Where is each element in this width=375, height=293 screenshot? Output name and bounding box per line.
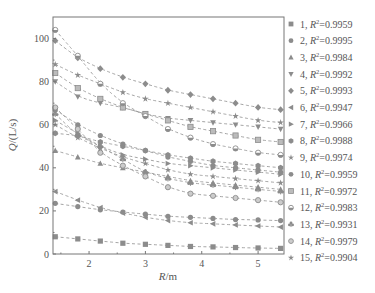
y-tick-label: 100 <box>34 33 49 44</box>
square-open-marker-icon <box>289 189 294 194</box>
circle-half-marker-icon <box>210 142 215 147</box>
triangle-left-marker-icon <box>210 221 215 227</box>
triangle-right-marker-icon <box>143 156 148 162</box>
circle-marker-icon <box>165 154 170 159</box>
hexagon-marker-icon <box>289 138 294 144</box>
legend-item-7: 7, R2=0.9966 <box>289 118 353 130</box>
y-tick-label: 80 <box>39 76 49 87</box>
x-tick-label: 4 <box>199 258 204 269</box>
series-11 <box>53 70 284 144</box>
triangle-down-marker-icon <box>75 94 81 99</box>
triangle-right-marker-icon <box>166 161 171 167</box>
legend-item-5: 5, R2=0.9993 <box>288 84 352 96</box>
diamond-marker-icon <box>120 74 126 81</box>
legend-item-8: 8, R2=0.9988 <box>289 134 353 146</box>
x-tick-label: 2 <box>87 258 92 269</box>
legend-label: 2, R2=0.9995 <box>300 34 353 46</box>
circle-open-marker-icon <box>165 185 170 190</box>
circle-marker-icon <box>210 163 215 168</box>
legend-label: 11, R2=0.9972 <box>300 185 357 197</box>
circle-open-marker-icon <box>120 163 125 168</box>
legend-item-12: 12, R2=0.9983 <box>289 201 358 213</box>
legend-item-1: 1, R2=0.9959 <box>289 18 353 30</box>
y-axis-symbol: Q <box>6 143 18 151</box>
square-open-marker-icon <box>98 96 103 101</box>
circle-marker-icon <box>120 142 125 147</box>
x-axis-title: R/m <box>158 270 178 282</box>
legend-label: 10, R2=0.9959 <box>300 168 358 180</box>
legend-label: 8, R2=0.9988 <box>300 134 353 146</box>
star-marker-icon <box>187 171 194 177</box>
diamond-marker-icon <box>97 65 103 72</box>
square-marker-icon <box>75 236 80 241</box>
legend-label: 3, R2=0.9984 <box>300 51 353 63</box>
triangle-down-marker-icon <box>278 127 284 132</box>
diamond-marker-icon <box>232 100 238 107</box>
legend: 1, R2=0.99592, R2=0.99953, R2=0.99844, R… <box>288 18 358 264</box>
y-axis-title: Q/(L/s) <box>6 118 19 151</box>
triangle-left-marker-icon <box>187 220 192 226</box>
star-marker-icon <box>255 117 262 123</box>
circle-open-marker-icon <box>188 191 193 196</box>
circle-marker-icon <box>289 172 294 177</box>
diamond-marker-icon <box>255 104 261 111</box>
circle-half-marker-icon <box>233 146 238 151</box>
star-marker-icon <box>74 72 81 78</box>
y-tick-label: 0 <box>44 249 49 260</box>
diamond-marker-icon <box>277 106 283 113</box>
circle-marker-icon <box>289 38 294 43</box>
circle-half-marker-icon <box>255 150 260 155</box>
circle-half-marker-icon <box>165 126 170 131</box>
circle-half-marker-icon <box>98 81 103 86</box>
circle-marker-icon <box>143 148 148 153</box>
y-tick-label: 60 <box>39 119 49 130</box>
fit-line-5 <box>55 41 280 110</box>
legend-label: 14, R2=0.9979 <box>300 235 358 247</box>
circle-open-marker-icon <box>210 193 215 198</box>
triangle-left-marker-icon <box>288 105 293 110</box>
circle-marker-icon <box>255 167 260 172</box>
circle-marker-icon <box>98 133 103 138</box>
square-marker-icon <box>289 22 294 27</box>
legend-label: 6, R2=0.9947 <box>300 101 353 113</box>
star-marker-icon <box>232 113 239 119</box>
circle-half-marker-icon <box>120 101 125 106</box>
legend-label: 1, R2=0.9959 <box>300 18 353 30</box>
club-marker-icon <box>165 175 172 181</box>
club-marker-icon <box>187 180 194 186</box>
legend-label: 7, R2=0.9966 <box>300 118 353 130</box>
circle-marker-icon <box>233 217 238 222</box>
triangle-down-marker-icon <box>288 72 293 77</box>
square-marker-icon <box>233 245 238 250</box>
circle-open-marker-icon <box>289 239 294 244</box>
legend-label: 15, R2=0.9904 <box>300 251 358 263</box>
chart: 2345 020406080100 R/m Q/(L/s) 1, R2=0.99… <box>0 0 375 293</box>
square-open-marker-icon <box>188 124 193 129</box>
square-marker-icon <box>98 238 103 243</box>
triangle-up-marker-icon <box>288 55 293 60</box>
star-marker-icon <box>165 166 172 172</box>
legend-item-13: 13, R2=0.9931 <box>288 218 358 230</box>
triangle-left-marker-icon <box>255 223 260 229</box>
diamond-marker-icon <box>288 88 294 94</box>
square-open-marker-icon <box>75 86 80 91</box>
legend-item-15: 15, R2=0.9904 <box>288 251 358 263</box>
club-marker-icon <box>210 182 216 188</box>
legend-item-14: 14, R2=0.9979 <box>289 235 358 247</box>
square-marker-icon <box>165 243 170 248</box>
triangle-left-marker-icon <box>277 224 282 230</box>
legend-item-6: 6, R2=0.9947 <box>288 101 352 113</box>
legend-item-11: 11, R2=0.9972 <box>289 185 358 197</box>
circle-marker-icon <box>255 217 260 222</box>
star-marker-icon <box>288 154 294 160</box>
star-marker-icon <box>210 108 217 114</box>
star-marker-icon <box>288 255 294 261</box>
circle-marker-icon <box>233 165 238 170</box>
square-open-marker-icon <box>278 139 283 144</box>
series-6 <box>52 189 283 230</box>
legend-item-3: 3, R2=0.9984 <box>288 51 352 63</box>
circle-marker-icon <box>278 218 283 223</box>
triangle-up-marker-icon <box>75 154 81 159</box>
circle-marker-icon <box>188 215 193 220</box>
square-marker-icon <box>255 245 260 250</box>
